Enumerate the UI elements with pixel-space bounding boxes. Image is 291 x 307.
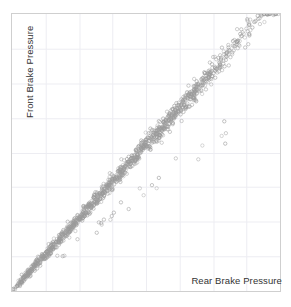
scatter-plot-figure: Front Brake Pressure Rear Brake Pressure: [0, 0, 291, 307]
y-axis-title: Front Brake Pressure: [25, 26, 35, 118]
scatter-points: [12, 14, 280, 291]
x-axis-title: Rear Brake Pressure: [191, 276, 282, 286]
plot-area: [11, 13, 281, 292]
